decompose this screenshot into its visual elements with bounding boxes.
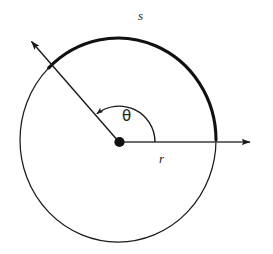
diagram-canvas: s r θ: [0, 0, 273, 254]
arc-length-label: s: [138, 9, 143, 22]
angle-theta-label: θ: [122, 109, 131, 124]
radius-line-diagonal: [32, 42, 120, 143]
circle-arc-figure: [0, 0, 273, 254]
center-point-dot: [114, 137, 124, 147]
radius-label: r: [159, 152, 164, 165]
arc-highlight-s: [49, 38, 216, 140]
